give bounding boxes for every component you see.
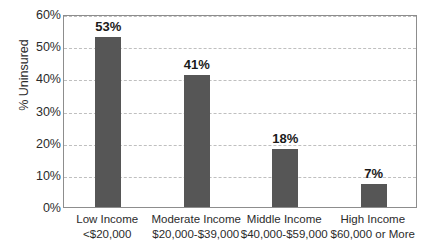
y-axis-tick-label: 50% [22,41,61,53]
bar-slot: 53% [64,16,153,207]
y-axis-tick-label: 20% [22,138,61,150]
x-axis-label-line2: $60,000 or More [329,227,418,242]
y-axis-tick-labels: 60%50%40%30%20%10%0% [22,15,61,208]
bar[interactable] [95,37,121,207]
bar-slot: 18% [241,16,330,207]
bar[interactable] [361,184,387,207]
bars-layer: 53%41%18%7% [64,16,416,207]
bar-value-label: 41% [184,58,210,71]
bar-chart: % Uninsured 60%50%40%30%20%10%0% 53%41%1… [0,0,431,251]
bar[interactable] [272,149,298,207]
y-axis-tick-label: 30% [22,106,61,118]
y-axis-tick-label: 10% [22,170,61,182]
x-axis-label-line2: $40,000-$59,000 [240,227,329,242]
x-axis-label: High Income$60,000 or More [329,212,418,241]
y-axis-tick-label: 0% [22,202,61,214]
x-axis-label: Middle Income$40,000-$59,000 [240,212,329,241]
x-axis-label-line2: $20,000-$39,000 [152,227,241,242]
x-axis-label-line2: <$20,000 [63,227,152,242]
y-axis-tick-label: 60% [22,9,61,21]
bar-slot: 7% [330,16,419,207]
bar-value-label: 53% [95,20,121,33]
x-axis-label: Moderate Income$20,000-$39,000 [152,212,241,241]
bar-value-label: 18% [272,132,298,145]
x-axis-label-line1: Middle Income [247,213,322,225]
plot-area: 53%41%18%7% [63,15,417,208]
x-axis-label: Low Income<$20,000 [63,212,152,241]
x-axis-label-line1: Low Income [76,213,138,225]
x-axis-category-labels: Low Income<$20,000Moderate Income$20,000… [63,212,417,250]
y-axis-tick-label: 40% [22,73,61,85]
bar-slot: 41% [153,16,242,207]
x-axis-label-line1: High Income [340,213,405,225]
chart-title-remnant [63,0,263,5]
x-axis-label-line1: Moderate Income [152,213,242,225]
bar[interactable] [184,75,210,207]
bar-value-label: 7% [364,167,383,180]
